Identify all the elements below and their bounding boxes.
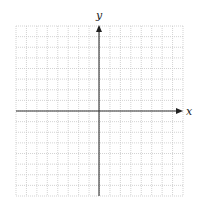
x-axis-label: x — [186, 105, 193, 118]
x-axis-arrow-icon — [176, 108, 183, 114]
coordinate-plane: x y — [0, 0, 197, 201]
y-axis-label: y — [95, 9, 103, 22]
